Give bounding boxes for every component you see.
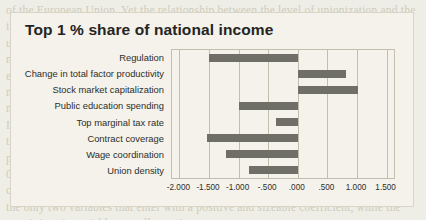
bar <box>207 134 298 142</box>
axis-tick-label: .000 <box>289 183 305 192</box>
bar-row <box>172 114 394 130</box>
bar <box>239 102 298 110</box>
plot-wrapper: Regulation Change in total factor produc… <box>11 49 413 206</box>
category-label: Union density <box>11 163 171 179</box>
category-axis-labels: Regulation Change in total factor produc… <box>11 49 171 179</box>
axis-tick-label: -1.000 <box>226 183 249 192</box>
category-label: Wage coordination <box>11 147 171 163</box>
axis-tick-label: -1.500 <box>196 183 219 192</box>
bar-row <box>172 146 394 162</box>
category-label: Stock market capitalization <box>11 82 171 98</box>
axis-tick-label: 1.000 <box>346 183 367 192</box>
bar-row <box>172 98 394 114</box>
chart-title: Top 1 % share of national income <box>25 21 273 39</box>
bar-row <box>172 50 394 66</box>
category-label: Public education spending <box>11 98 171 114</box>
bar-row <box>172 82 394 98</box>
category-label: Top marginal tax rate <box>11 114 171 130</box>
category-label: Regulation <box>11 49 171 65</box>
axis-tick-label: .500 <box>318 183 334 192</box>
plot-area <box>171 49 395 179</box>
chart-container: Top 1 % share of national income Regulat… <box>10 12 414 207</box>
bar-row <box>172 66 394 82</box>
bar <box>298 70 346 78</box>
bar <box>298 86 358 94</box>
bar <box>249 166 298 174</box>
axis-tick-label: 1.500 <box>375 183 396 192</box>
axis-tick-label: -2.000 <box>167 183 190 192</box>
category-label: Change in total factor productivity <box>11 65 171 81</box>
bar <box>209 54 298 62</box>
bar <box>276 118 298 126</box>
value-axis: -2.000-1.500-1.000-.500.000.5001.0001.50… <box>171 180 395 196</box>
category-label: Contract coverage <box>11 130 171 146</box>
axis-tick-label: -.500 <box>258 183 277 192</box>
bar-row <box>172 162 394 178</box>
bar-row <box>172 130 394 146</box>
bar <box>226 150 298 158</box>
bar-rows <box>172 50 394 178</box>
